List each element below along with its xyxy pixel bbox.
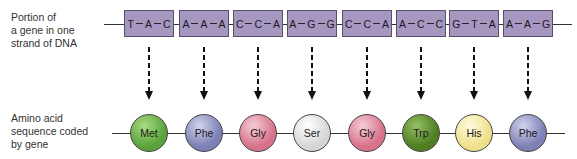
codon-box: TAC [124, 10, 174, 37]
amino-acid-circle: Phe [509, 114, 547, 152]
dashed-arrow-down-icon [364, 47, 370, 101]
nucleotide-base: C [162, 18, 172, 30]
dashed-arrow-down-icon [471, 47, 477, 101]
amino-acid-name: Trp [413, 127, 428, 139]
nucleotide-base: C [416, 18, 426, 30]
nucleotide-base: G [306, 18, 316, 30]
bond-dash [480, 23, 487, 24]
bond-dash [515, 23, 522, 24]
codon-box: GTA [449, 10, 499, 37]
amino-acid-name: Met [140, 127, 158, 139]
nucleotide-base: A [505, 18, 514, 30]
amino-acid-circle: Ser [293, 114, 331, 152]
label-line: by gene [11, 138, 88, 151]
nucleotide-base: A [144, 18, 153, 30]
bond-dash [354, 23, 361, 24]
bond-dash [318, 23, 325, 24]
amino-acid-circle: Gly [239, 114, 277, 152]
dashed-arrow-down-icon [525, 47, 531, 101]
amino-acid-circle: His [455, 114, 493, 152]
codon-box: AAG [503, 10, 553, 37]
nucleotide-base: A [488, 18, 497, 30]
amino-acid-name: Ser [304, 127, 320, 139]
amino-acid-sequence-label: Amino acid sequence coded by gene [11, 112, 88, 151]
nucleotide-base: A [218, 18, 227, 30]
dashed-arrow-down-icon [309, 47, 315, 101]
codon-box: CCA [233, 10, 283, 37]
label-line: sequence coded [11, 125, 88, 138]
amino-acid-name: Phe [519, 127, 538, 139]
amino-acid-circle: Met [130, 114, 168, 152]
bond-dash [136, 23, 143, 24]
codon-box: AGG [287, 10, 337, 37]
bond-dash [245, 23, 252, 24]
protein-backbone-line [112, 133, 565, 134]
label-line: Amino acid [11, 112, 88, 125]
nucleotide-base: A [398, 18, 407, 30]
bond-dash [533, 23, 540, 24]
bond-dash [427, 23, 434, 24]
amino-acid-name: Gly [250, 127, 266, 139]
nucleotide-base: C [253, 18, 263, 30]
amino-acid-circle: Gly [348, 114, 386, 152]
nucleotide-base: A [181, 18, 190, 30]
dashed-arrow-down-icon [418, 47, 424, 101]
bond-dash [210, 23, 217, 24]
nucleotide-base: G [541, 18, 551, 30]
nucleotide-base: G [326, 18, 336, 30]
dashed-arrow-down-icon [255, 47, 261, 101]
bond-dash [264, 23, 271, 24]
codon-box: AAA [179, 10, 229, 37]
nucleotide-base: T [470, 18, 478, 30]
amino-acid-circle: Phe [185, 114, 223, 152]
bond-dash [154, 23, 161, 24]
bond-dash [462, 23, 469, 24]
nucleotide-base: A [381, 18, 390, 30]
bond-dash [373, 23, 380, 24]
label-line: a gene in one [11, 24, 77, 37]
amino-acid-name: Gly [359, 127, 375, 139]
codon-box: CCA [342, 10, 392, 37]
bond-dash [298, 23, 305, 24]
nucleotide-base: C [235, 18, 245, 30]
nucleotide-base: C [344, 18, 354, 30]
label-line: strand of DNA [11, 37, 77, 50]
dashed-arrow-down-icon [146, 47, 152, 101]
nucleotide-base: T [126, 18, 134, 30]
dashed-arrow-down-icon [201, 47, 207, 101]
nucleotide-base: A [288, 18, 297, 30]
label-line: Portion of [11, 11, 77, 24]
nucleotide-base: A [272, 18, 281, 30]
nucleotide-base: A [523, 18, 532, 30]
nucleotide-base: A [199, 18, 208, 30]
bond-dash [191, 23, 198, 24]
amino-acid-name: His [466, 127, 481, 139]
amino-acid-circle: Trp [402, 114, 440, 152]
codon-box: ACC [396, 10, 446, 37]
dna-backbone-line [104, 24, 572, 25]
nucleotide-base: C [362, 18, 372, 30]
nucleotide-base: C [435, 18, 445, 30]
nucleotide-base: G [451, 18, 461, 30]
bond-dash [408, 23, 415, 24]
amino-acid-name: Phe [195, 127, 214, 139]
dna-strand-label: Portion of a gene in one strand of DNA [11, 11, 77, 50]
